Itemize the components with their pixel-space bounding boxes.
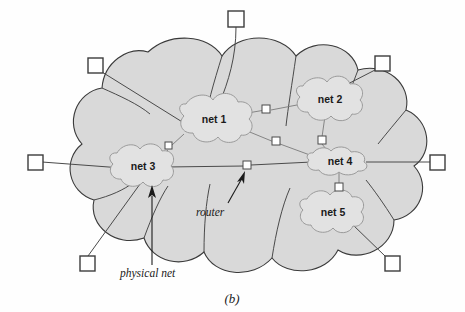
router-net1-net3[interactable] — [165, 142, 172, 149]
router-net4-net5[interactable] — [335, 183, 343, 191]
router-net3-net4[interactable] — [243, 161, 251, 169]
net1-label: net 1 — [202, 113, 227, 125]
router-label: router — [196, 206, 225, 218]
net2-label: net 2 — [318, 93, 343, 105]
host-top[interactable] — [228, 11, 244, 27]
physical-net-label: physical net — [119, 267, 176, 280]
host-bottom-right[interactable] — [385, 256, 400, 271]
router-net1-net2[interactable] — [262, 105, 270, 113]
router-net2-net4[interactable] — [318, 136, 326, 144]
router-net1-net4[interactable] — [272, 137, 280, 145]
host-top-right[interactable] — [375, 56, 390, 71]
host-bottom-left[interactable] — [80, 256, 95, 271]
host-top-left[interactable] — [88, 58, 103, 73]
host-right[interactable] — [430, 155, 445, 170]
net3-label: net 3 — [131, 160, 156, 172]
figure-caption: (b) — [224, 291, 239, 306]
diagram-canvas: net 1 net 2 net 3 net 4 net 5 — [0, 0, 465, 312]
network-diagram-figure: net 1 net 2 net 3 net 4 net 5 — [0, 0, 465, 312]
net5-label: net 5 — [321, 206, 346, 218]
net4-label: net 4 — [328, 155, 353, 167]
host-left[interactable] — [28, 155, 43, 170]
